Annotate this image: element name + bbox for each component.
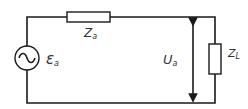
wire-top-right xyxy=(110,17,215,44)
load-impedance-label: ZL xyxy=(227,47,240,61)
wire-bottom xyxy=(27,70,215,103)
output-voltage-label: Ua xyxy=(163,52,178,68)
wire-left-top xyxy=(27,17,67,46)
load-impedance-resistor xyxy=(209,44,221,74)
series-impedance-resistor xyxy=(67,12,110,22)
ac-source-icon xyxy=(15,46,39,70)
source-emf-label: εa xyxy=(46,50,59,68)
series-impedance-label: Za xyxy=(83,26,97,41)
circuit-diagram: Za εa Ua ZL xyxy=(0,0,248,109)
